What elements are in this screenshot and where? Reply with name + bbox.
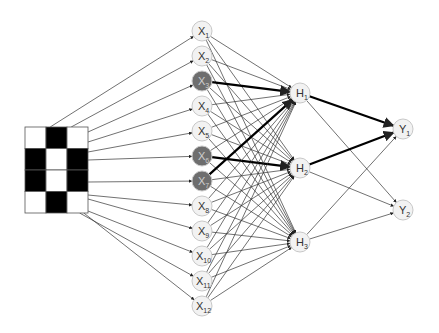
node-subscript: 1 <box>304 94 308 101</box>
pixel-cell <box>25 127 46 149</box>
node-subscript: 2 <box>205 57 209 64</box>
node-x3: X3 <box>192 71 212 91</box>
pixel-to-x6-edge <box>88 156 192 160</box>
pixel-cell <box>67 192 88 214</box>
node-x9: X9 <box>192 221 212 241</box>
node-subscript: 4 <box>205 107 209 114</box>
node-letter: H <box>296 162 304 174</box>
pixel-cell <box>67 149 88 171</box>
h1-to-y1-edge <box>309 96 393 125</box>
x11-to-h3-edge <box>211 246 290 278</box>
node-subscript: 1 <box>205 32 209 39</box>
node-subscript: 5 <box>205 132 209 139</box>
pixel-cell <box>46 127 67 149</box>
x2-to-h1-edge <box>211 60 290 90</box>
pixel-to-x4-edge <box>88 109 192 142</box>
node-subscript: 9 <box>205 232 209 239</box>
input-to-hidden-edges <box>206 36 296 300</box>
x8-to-h1-edge <box>209 101 294 199</box>
node-x7: X7 <box>192 171 212 191</box>
node-subscript: 7 <box>205 182 209 189</box>
pixel-cell <box>46 192 67 214</box>
node-subscript: 10 <box>203 257 211 264</box>
output-layer: Y1Y2 <box>393 119 413 220</box>
pixel-cell <box>25 149 46 171</box>
pixel-to-x2-edge <box>71 61 193 127</box>
pixel-to-x1-edge <box>50 36 193 127</box>
node-subscript: 6 <box>205 157 209 164</box>
pixel-cell <box>46 149 67 171</box>
x10-to-h2-edge <box>209 175 292 250</box>
pixel-cell <box>25 170 46 192</box>
pixel-to-x3-edge <box>88 85 193 132</box>
input-layer: X1X2X3X4X5X6X7X8X9X10X11X12 <box>192 21 212 316</box>
pixel-cell <box>46 170 67 192</box>
node-subscript: 3 <box>205 82 209 89</box>
node-x12: X12 <box>192 296 212 316</box>
node-x1: X1 <box>192 21 212 41</box>
node-letter: H <box>296 87 304 99</box>
node-x2: X2 <box>192 46 212 66</box>
pixel-to-x5-edge <box>88 133 192 152</box>
hidden-to-output-edges <box>307 96 397 239</box>
input-pixel-grid <box>25 127 88 213</box>
pixel-to-x11-edge <box>80 213 194 276</box>
node-x4: X4 <box>192 96 212 116</box>
pixel-cell <box>67 170 88 192</box>
node-subscript: 2 <box>304 169 308 176</box>
network-canvas: X1X2X3X4X5X6X7X8X9X10X11X12 H1H2H3 Y1Y2 <box>0 0 439 333</box>
pixel-to-x7-edge <box>88 181 192 182</box>
node-subscript: 1 <box>406 130 410 137</box>
node-letter: H <box>296 236 304 248</box>
x9-to-h1-edge <box>208 101 294 223</box>
node-subscript: 3 <box>304 243 308 250</box>
x11-to-h1-edge <box>207 102 296 272</box>
x12-to-h3-edge <box>210 247 291 300</box>
pixel-to-x12-edge <box>84 213 194 300</box>
node-subscript: 8 <box>205 207 209 214</box>
x12-to-h2-edge <box>208 176 294 298</box>
x6-to-h1-edge <box>210 98 291 150</box>
h2-to-y1-edge <box>309 133 393 165</box>
node-subscript: 11 <box>203 282 210 289</box>
node-y2: Y2 <box>393 200 413 220</box>
x3-to-h1-edge <box>212 82 290 92</box>
node-x6: X6 <box>192 146 212 166</box>
node-subscript: 2 <box>406 211 410 218</box>
node-x5: X5 <box>192 121 212 141</box>
x7-to-h3-edge <box>210 186 291 236</box>
h3-to-y2-edge <box>310 213 394 239</box>
pixel-cell <box>25 192 46 214</box>
node-x11: X11 <box>192 271 212 291</box>
node-h3: H3 <box>290 232 310 252</box>
pixel-to-x10-edge <box>88 211 193 252</box>
node-x8: X8 <box>192 196 212 216</box>
neural-network-diagram: X1X2X3X4X5X6X7X8X9X10X11X12 H1H2H3 Y1Y2 <box>0 0 439 333</box>
x10-to-h3-edge <box>212 243 290 254</box>
node-h2: H2 <box>290 158 310 178</box>
x4-to-h1-edge <box>212 94 290 104</box>
node-subscript: 12 <box>203 307 211 314</box>
h2-to-y2-edge <box>309 172 393 206</box>
pixel-cell <box>67 127 88 149</box>
node-y1: Y1 <box>393 119 413 139</box>
node-h1: H1 <box>290 83 310 103</box>
node-x10: X10 <box>192 246 212 266</box>
